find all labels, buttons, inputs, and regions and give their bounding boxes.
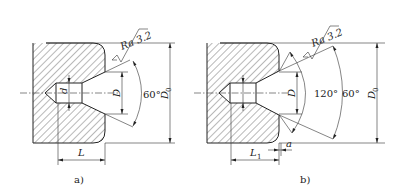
figure-a: d D 60° D 0 L Ra 3.2 a): [20, 29, 175, 185]
ext-cone-top-b: [277, 46, 333, 72]
label-L1-main-b: L: [249, 147, 257, 158]
ext-chamfer-bottom-b: [280, 116, 292, 133]
ext-cone-bottom-a: [105, 114, 133, 127]
label-D0-sub-a: 0: [165, 88, 173, 92]
label-roughness-a: Ra 3.2: [118, 29, 153, 52]
label-L1-sub-b: 1: [257, 153, 261, 161]
label-L1-b: L 1: [249, 147, 261, 161]
label-roughness-b: Ra 3.2: [309, 26, 344, 49]
label-D0-b: D 0: [366, 88, 380, 100]
ext-cone-bottom-b: [277, 114, 333, 139]
ext-chamfer-top-b: [280, 52, 290, 70]
label-a-b: a: [286, 138, 292, 149]
ext-cone-top-a: [105, 60, 130, 72]
center-hole-drawing: d D 60° D 0 L Ra 3.2 a): [0, 0, 407, 194]
label-angle-120-b: 120°: [314, 88, 338, 99]
label-d-a: d: [58, 88, 69, 94]
caption-b: b): [300, 174, 310, 185]
caption-a: a): [74, 174, 84, 185]
label-D-b: D: [286, 89, 297, 98]
angle-arc-a: [133, 61, 142, 126]
label-L-a: L: [77, 147, 85, 158]
label-D0-sub-b: 0: [372, 88, 380, 92]
label-angle-60-b: 60°: [342, 88, 360, 99]
label-D-a: D: [111, 89, 122, 98]
angle-arrows-a: [133, 61, 137, 126]
label-D0-a: D 0: [159, 88, 173, 100]
figure-b: D 120° 60° D 0 L 1 a Ra 3.2 b): [194, 26, 385, 185]
